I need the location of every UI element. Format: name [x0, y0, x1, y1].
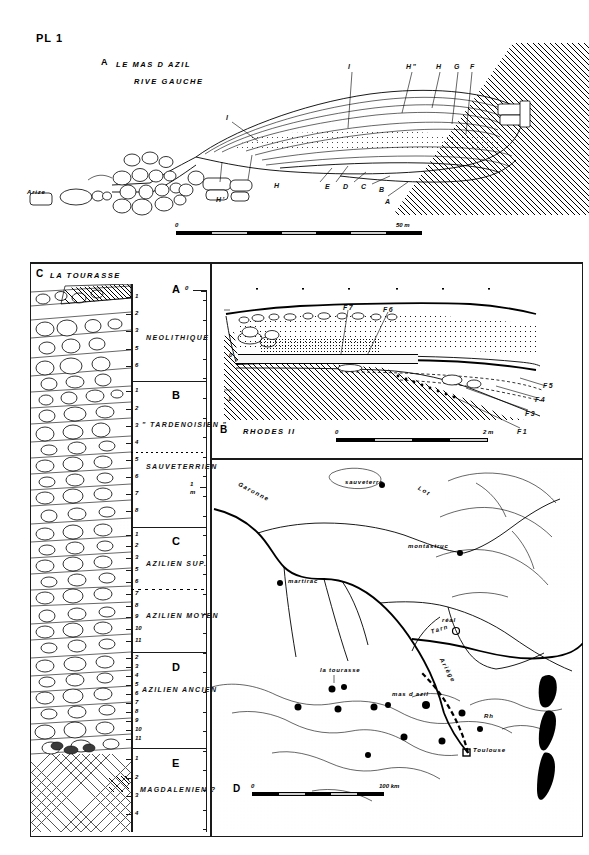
panel-a-lower-label-0: H': [216, 196, 226, 203]
panel-c-zone-letter-3: D: [172, 661, 180, 673]
panel-c-layer-tick: [126, 759, 133, 760]
panel-b-label-1: F6: [383, 306, 394, 313]
panel-c-layer-number: 3: [135, 792, 138, 798]
panel-c-layer-tick: [126, 477, 133, 478]
panel-c-depth-minor-tick: [203, 594, 207, 595]
panel-d-scale-bar: [252, 792, 384, 796]
panel-c-layer-number: 6: [135, 690, 138, 696]
panel-c-layer-tick: [126, 796, 133, 797]
panel-a-river-label: Arize: [27, 189, 46, 195]
panel-c-layer-tick: [126, 546, 133, 547]
panel-c-depth-mid: 1: [190, 481, 193, 487]
panel-b-drawing: [0, 268, 589, 468]
panel-c-layer-number: 7: [135, 699, 138, 705]
panel-c-depth-minor-tick: [203, 712, 207, 713]
panel-b-label-0: F7: [343, 304, 354, 311]
panel-c-layer-number: 2: [135, 542, 138, 548]
panel-c-layer-tick: [126, 778, 133, 779]
panel-c-layer-number: 10: [135, 625, 142, 631]
panel-c-depth-minor-tick: [203, 751, 207, 752]
panel-a-lower-label-1: H: [274, 182, 280, 189]
map-site-martirac: martirac: [288, 578, 318, 584]
panel-c-layer-tick: [126, 814, 133, 815]
panel-c-layer-number: 9: [135, 717, 138, 723]
panel-d-letter: D: [233, 783, 241, 794]
panel-c-layer-tick: [126, 730, 133, 731]
panel-a-lower-label-2: E: [325, 183, 331, 190]
panel-c-dashed-divider-1: [131, 589, 207, 590]
panel-c-layer-number: 2: [135, 774, 138, 780]
panel-c-layer-tick: [126, 617, 133, 618]
panel-c-layer-tick: [126, 694, 133, 695]
panel-c-zone-divider-2: [131, 652, 207, 653]
panel-c-depth-minor-tick: [203, 535, 207, 536]
panel-b-level-top: 0: [229, 352, 232, 358]
panel-c-zone-letter-2: C: [172, 535, 180, 547]
panel-c-layer-tick: [126, 570, 133, 571]
panel-c-layer-tick: [126, 667, 133, 668]
panel-c-layer-tick: [126, 712, 133, 713]
sand-bed-2: [31, 520, 131, 530]
panel-c-layer-tick: [126, 739, 133, 740]
panel-c-layer-number: 9: [135, 613, 138, 619]
panel-b-level-bottom: -1: [226, 396, 231, 402]
panel-a-lower-label-5: B: [379, 186, 385, 193]
sand-bed-3: [31, 584, 131, 592]
panel-b-scale-bar: [336, 438, 488, 442]
panel-c-layer-tick: [126, 606, 133, 607]
panel-c-layer-tick: [126, 535, 133, 536]
panel-c-layer-tick: [126, 582, 133, 583]
panel-c-layer-number: 11: [135, 637, 141, 643]
panel-c-depth-minor-tick: [203, 672, 207, 673]
panel-a-scale-end: 50 m: [396, 222, 410, 228]
panel-b-label-4: F3: [525, 410, 536, 417]
panel-c-layer-number: 6: [135, 473, 138, 479]
panel-c-layer-number: 6: [135, 578, 138, 584]
panel-c-layer-number: 2: [135, 654, 138, 660]
panel-c-layer-number: 1: [135, 755, 138, 761]
panel-c-zone-divider-1: [131, 527, 207, 528]
panel-d-map: Garonne Lot Tarn Ariège sauveterre monta…: [212, 461, 583, 835]
panel-c-layer-tick: [126, 721, 133, 722]
panel-c-depth-minor-tick: [203, 614, 207, 615]
sand-bed-4: [31, 688, 131, 697]
panel-b-label-2: F5: [543, 382, 554, 389]
panel-c-depth-minor-tick: [203, 790, 207, 791]
panel-c-depth-minor-tick: [203, 653, 207, 654]
panel-c-layer-tick: [126, 558, 133, 559]
panel-c-layer-number: 10: [135, 726, 142, 732]
panel-c-depth-minor-tick: [203, 810, 207, 811]
panel-c-layer-number: 1: [135, 531, 138, 537]
panel-c-depth-tick-1: [200, 487, 207, 488]
panel-c-layer-tick: [126, 494, 133, 495]
panel-d-scale-start: 0: [251, 783, 254, 789]
panel-b-scale-end: 2 m: [483, 429, 493, 435]
panel-c-layer-number: 5: [135, 566, 138, 572]
panel-c-layer-tick: [126, 629, 133, 630]
panel-c-layer-number: 8: [135, 507, 138, 513]
panel-c-depth-minor-tick: [203, 829, 207, 830]
panel-c-layer-tick: [126, 685, 133, 686]
panel-b-label-5: F1: [517, 428, 528, 435]
map-site-la-tourasse: la tourasse: [320, 667, 360, 673]
map-site-real: réal: [442, 617, 456, 623]
panel-d-lines: [212, 461, 583, 835]
panel-c-layer-number: 7: [135, 590, 138, 596]
panel-c-depth-minor-tick: [203, 770, 207, 771]
panel-c-layer-number: 8: [135, 708, 138, 714]
panel-c-zone-name-2b: AZILIEN MOYEN: [146, 612, 219, 619]
panel-c-layer-tick: [126, 703, 133, 704]
panel-c-depth-minor-tick: [203, 692, 207, 693]
panel-c-depth-mid-unit: m: [190, 489, 195, 495]
panel-c-zone-name-2: AZILIEN SUP.: [146, 560, 207, 567]
panel-c-depth-minor-tick: [203, 476, 207, 477]
panel-c-layer-number: 11: [135, 735, 141, 741]
panel-c-layer-number: 5: [135, 681, 138, 687]
panel-c-layer-number: 7: [135, 490, 138, 496]
panel-c-depth-minor-tick: [203, 496, 207, 497]
plate-page: PL 1 A LE MAS D AZIL RIVE GAUCHE: [0, 0, 589, 855]
panel-c-depth-minor-tick: [203, 516, 207, 517]
panel-c-depth-minor-tick: [203, 574, 207, 575]
panel-c-layer-number: 3: [135, 554, 138, 560]
panel-a-scale-start: 0: [175, 222, 178, 228]
